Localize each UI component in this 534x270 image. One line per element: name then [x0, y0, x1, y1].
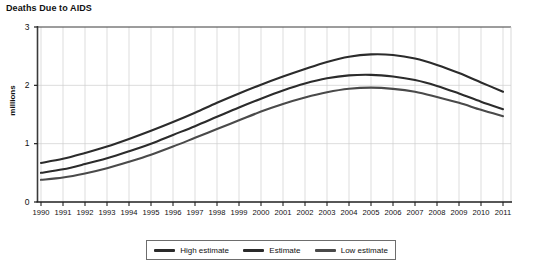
legend-label: High estimate: [180, 246, 229, 255]
legend-item[interactable]: Low estimate: [315, 246, 388, 255]
plot-background: [38, 27, 512, 202]
legend-swatch-icon: [154, 249, 175, 252]
legend-item[interactable]: High estimate: [154, 246, 229, 255]
chart-legend: High estimateEstimateLow estimate: [146, 240, 396, 260]
legend-swatch-icon: [315, 249, 336, 252]
legend-label: Estimate: [269, 246, 300, 255]
legend-item[interactable]: Estimate: [243, 246, 300, 255]
legend-swatch-icon: [243, 249, 264, 252]
plot-area: [0, 0, 534, 270]
legend-label: Low estimate: [341, 246, 388, 255]
chart-container: Deaths Due to AIDS millions 0123 1990199…: [0, 0, 534, 270]
